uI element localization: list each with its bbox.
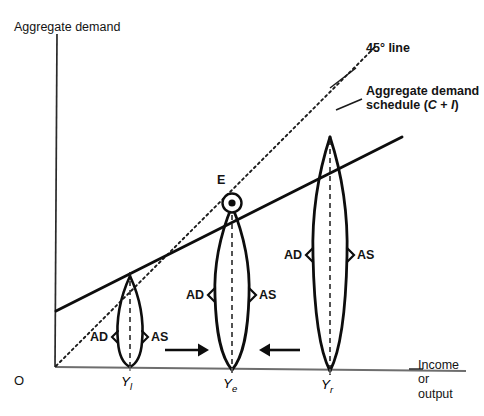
x-axis-label-line1: Income: [418, 358, 459, 372]
tick-label-yl: Yl: [121, 374, 132, 392]
aggregate-demand-schedule-line: [56, 137, 402, 311]
lens-middle-ad-label: AD: [186, 288, 204, 302]
lens-left: [112, 272, 148, 369]
aggregate-demand-figure: Aggregate demand 45° line Aggregate dema…: [0, 0, 484, 416]
x-axis-label-line3: output: [418, 387, 453, 401]
aggregate-demand-schedule-label: Aggregate demandschedule (C + I): [366, 84, 479, 113]
lens-right-ad-label: AD: [284, 248, 302, 262]
tick-label-ye: Ye: [223, 376, 237, 394]
ads-label-var-c: C: [428, 98, 437, 112]
ads-label-line2-post: ): [455, 98, 459, 112]
leader-line-45: [330, 68, 356, 88]
lens-left-as-label: AS: [151, 330, 168, 344]
lens-left-ad-label: AD: [90, 330, 108, 344]
lens-right-ad-curve: [313, 137, 330, 371]
equilibrium-dot: [228, 199, 235, 206]
leader-line-ads: [336, 99, 362, 110]
ads-label-line1: Aggregate demand: [366, 84, 479, 98]
ads-label-line2-pre: schedule (: [366, 98, 428, 112]
tick-label-yl-base: Y: [121, 374, 130, 389]
forty-five-degree-line-label: 45° line: [366, 41, 410, 55]
y-axis-label: Aggregate demand: [14, 20, 120, 34]
tick-label-yr-sub: r: [330, 384, 333, 395]
origin-label: O: [14, 374, 24, 389]
lens-left-ad-curve: [117, 276, 130, 367]
lens-right-as-label: AS: [357, 248, 374, 262]
y-axis: [55, 34, 57, 367]
lens-middle-as-curve: [232, 206, 249, 370]
tick-label-yl-sub: l: [130, 381, 132, 392]
arrow-right: [165, 344, 209, 357]
diagram-canvas: [0, 0, 484, 416]
tick-label-yr-base: Y: [321, 377, 330, 392]
equilibrium-label: E: [217, 173, 225, 187]
arrow-right-head: [198, 344, 209, 357]
tick-label-yr: Yr: [321, 377, 333, 395]
arrow-left-head: [259, 344, 270, 357]
tick-label-ye-sub: e: [232, 383, 237, 394]
equilibrium-marker: [223, 194, 242, 213]
x-axis: [55, 367, 466, 371]
x-axis-label-line2: or: [418, 372, 429, 386]
ads-label-plus: +: [437, 98, 451, 112]
x-axis-label: Incomeoroutput: [418, 358, 459, 401]
arrow-left: [259, 344, 300, 357]
tick-label-ye-base: Y: [223, 376, 232, 391]
lens-middle-as-label: AS: [259, 288, 276, 302]
